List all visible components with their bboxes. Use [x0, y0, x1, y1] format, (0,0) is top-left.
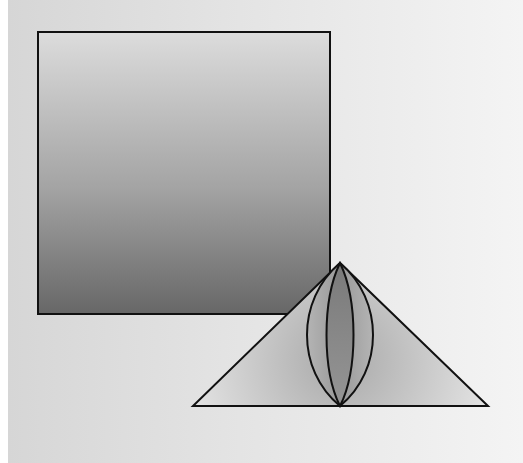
diagram-scene	[0, 0, 523, 463]
gradient-square	[38, 32, 330, 314]
